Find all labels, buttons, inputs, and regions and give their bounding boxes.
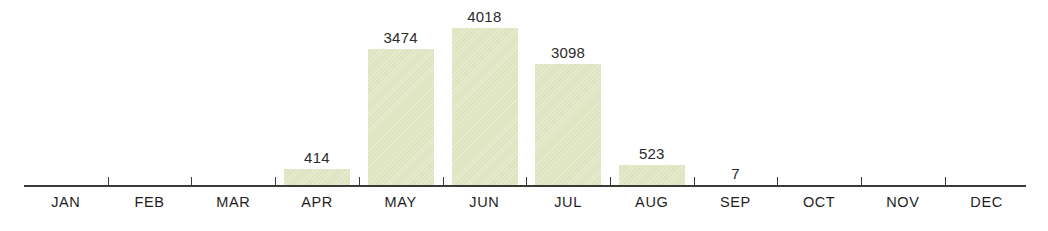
bar-feb bbox=[108, 25, 192, 185]
bar-oct bbox=[777, 25, 861, 185]
month-label-apr: APR bbox=[275, 192, 359, 212]
bar-rect-jun bbox=[452, 28, 518, 185]
bar-rect-may bbox=[368, 49, 434, 185]
bar-value-label-jun: 4018 bbox=[443, 8, 527, 25]
category-axis-line bbox=[24, 185, 1026, 187]
month-label-jul: JUL bbox=[526, 192, 610, 212]
bar-value-label-apr: 414 bbox=[275, 149, 359, 166]
month-label-jun: JUN bbox=[443, 192, 527, 212]
bar-dec bbox=[945, 25, 1029, 185]
bar-value-label-sep: 7 bbox=[694, 165, 778, 182]
bar-value-label-jul: 3098 bbox=[526, 44, 610, 61]
month-label-jan: JAN bbox=[24, 192, 108, 212]
plot-area: 4143474401830985237 JANFEBMARAPRMAYJUNJU… bbox=[0, 0, 1048, 231]
bar-mar bbox=[191, 25, 275, 185]
bar-value-label-may: 3474 bbox=[359, 29, 443, 46]
month-label-dec: DEC bbox=[945, 192, 1029, 212]
bar-jan bbox=[24, 25, 108, 185]
bar-rect-apr bbox=[284, 169, 350, 185]
bar-chart: 4143474401830985237 JANFEBMARAPRMAYJUNJU… bbox=[0, 0, 1048, 231]
month-label-feb: FEB bbox=[108, 192, 192, 212]
bar-rect-aug bbox=[619, 165, 685, 185]
bar-rect-jul bbox=[535, 64, 601, 185]
month-label-may: MAY bbox=[359, 192, 443, 212]
bar-value-label-aug: 523 bbox=[610, 145, 694, 162]
bar-may bbox=[359, 25, 443, 185]
month-label-aug: AUG bbox=[610, 192, 694, 212]
bar-nov bbox=[861, 25, 945, 185]
month-label-oct: OCT bbox=[777, 192, 861, 212]
bar-jun bbox=[443, 25, 527, 185]
month-label-mar: MAR bbox=[191, 192, 275, 212]
bar-sep bbox=[694, 25, 778, 185]
month-label-sep: SEP bbox=[694, 192, 778, 212]
month-label-nov: NOV bbox=[861, 192, 945, 212]
